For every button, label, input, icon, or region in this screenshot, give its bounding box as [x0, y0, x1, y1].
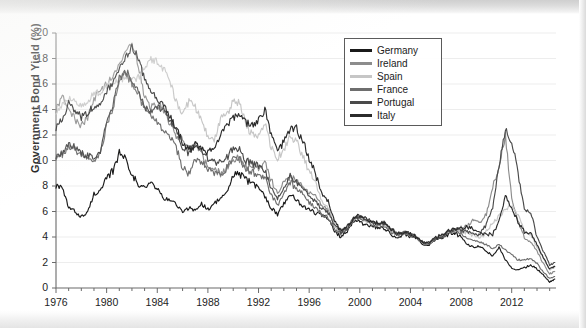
- chart-legend: GermanyIrelandSpainFrancePortugalItaly: [344, 38, 442, 126]
- line-chart: Government Bond Yield (%) 02468101214161…: [0, 0, 586, 328]
- series-line-portugal: [56, 70, 555, 265]
- x-axis-tick-label: 1980: [87, 296, 127, 308]
- y-axis-tick-label: 2: [22, 256, 48, 268]
- y-axis-tick-label: 6: [22, 205, 48, 217]
- legend-swatch-icon: [350, 62, 372, 64]
- x-axis-tick-label: 1988: [188, 296, 228, 308]
- chart-page: Government Bond Yield (%) 02468101214161…: [0, 0, 586, 328]
- legend-item-spain[interactable]: Spain: [350, 70, 403, 83]
- x-axis-tick-label: 2012: [492, 296, 532, 308]
- legend-swatch-icon: [350, 88, 372, 90]
- legend-swatch-icon: [350, 75, 372, 77]
- legend-label: France: [377, 83, 408, 96]
- legend-label: Spain: [377, 70, 403, 83]
- x-axis-tick-label: 1976: [36, 296, 76, 308]
- legend-swatch-icon: [350, 49, 372, 51]
- legend-label: Italy: [377, 109, 395, 122]
- y-axis-tick-label: 10: [22, 154, 48, 166]
- legend-item-france[interactable]: France: [350, 83, 408, 96]
- x-axis-tick-label: 2008: [441, 296, 481, 308]
- legend-item-portugal[interactable]: Portugal: [350, 96, 414, 109]
- y-axis-tick-label: 0: [22, 281, 48, 293]
- x-axis-tick-label: 1992: [239, 296, 279, 308]
- y-axis-tick-label: 20: [22, 26, 48, 38]
- y-axis-tick-label: 18: [22, 52, 48, 64]
- legend-item-germany[interactable]: Germany: [350, 44, 418, 57]
- legend-swatch-icon: [350, 101, 372, 103]
- legend-label: Germany: [377, 44, 418, 57]
- y-axis-tick-label: 14: [22, 103, 48, 115]
- legend-item-ireland[interactable]: Ireland: [350, 57, 408, 70]
- legend-label: Ireland: [377, 57, 408, 70]
- series-line-spain: [56, 56, 555, 269]
- plot-canvas: [0, 0, 586, 328]
- x-axis-tick-label: 2000: [340, 296, 380, 308]
- y-axis-tick-label: 8: [22, 179, 48, 191]
- legend-label: Portugal: [377, 96, 414, 109]
- x-axis-tick-label: 1996: [289, 296, 329, 308]
- y-axis-tick-label: 12: [22, 128, 48, 140]
- y-axis-tick-label: 16: [22, 77, 48, 89]
- legend-swatch-icon: [350, 114, 372, 116]
- x-axis-tick-label: 2004: [390, 296, 430, 308]
- legend-item-italy[interactable]: Italy: [350, 109, 395, 122]
- y-axis-tick-label: 4: [22, 230, 48, 242]
- x-axis-tick-label: 1984: [137, 296, 177, 308]
